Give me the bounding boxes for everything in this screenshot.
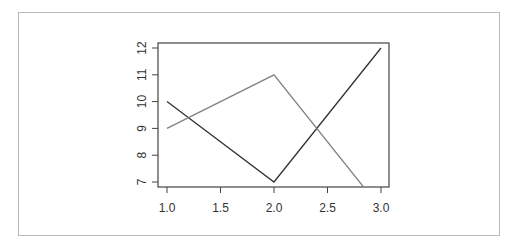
y-tick-label: 9 [135,125,149,132]
line-series-1 [167,48,381,182]
line-chart: 1.01.52.02.53.0789101112 [0,0,515,248]
x-tick-label: 3.0 [373,201,390,215]
y-tick-label: 11 [135,68,149,81]
x-tick-label: 2.0 [266,201,283,215]
x-tick-label: 1.5 [212,201,229,215]
y-tick-label: 7 [135,178,149,185]
x-tick-label: 1.0 [159,201,176,215]
y-tick-label: 8 [135,152,149,159]
y-tick-label: 10 [135,95,149,109]
y-tick-label: 12 [135,41,149,55]
x-tick-label: 2.5 [319,201,336,215]
